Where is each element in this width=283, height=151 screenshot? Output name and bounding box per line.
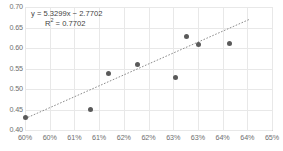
- data-point: [23, 115, 28, 120]
- x-tick-label-3: 61%: [86, 134, 112, 142]
- x-axis-tick-labels: 60%60%61%61%62%62%63%63%64%64%65%: [0, 134, 283, 148]
- gridline-v-10: [272, 7, 273, 130]
- gridline-h-0: [25, 130, 272, 131]
- x-tick-label-8: 64%: [210, 134, 236, 142]
- regression-annotation: y = 5.3299x − 2.7702 R2 = 0.7702: [31, 9, 102, 29]
- y-tick-label-6: 0.70: [1, 3, 23, 10]
- x-tick-label-6: 63%: [160, 134, 186, 142]
- y-tick-label-3: 0.55: [1, 65, 23, 72]
- x-tick-label-10: 65%: [259, 134, 283, 142]
- data-point: [135, 62, 140, 67]
- y-axis-tick-labels: 0.400.450.500.550.600.650.70: [0, 0, 23, 151]
- x-tick-label-5: 62%: [136, 134, 162, 142]
- x-tick-label-2: 61%: [61, 134, 87, 142]
- x-tick-label-4: 62%: [111, 134, 137, 142]
- y-tick-label-4: 0.60: [1, 44, 23, 51]
- y-tick-label-2: 0.50: [1, 85, 23, 92]
- data-point: [227, 41, 232, 46]
- y-tick-label-5: 0.65: [1, 24, 23, 31]
- x-tick-label-1: 60%: [37, 134, 63, 142]
- r-squared-text: R2 = 0.7702: [31, 19, 102, 29]
- x-tick-label-0: 60%: [12, 134, 38, 142]
- equation-text: y = 5.3299x − 2.7702: [31, 9, 102, 19]
- y-tick-label-1: 0.45: [1, 106, 23, 113]
- y-tick-label-0: 0.40: [1, 126, 23, 133]
- x-tick-label-7: 63%: [185, 134, 211, 142]
- r-squared-value: = 0.7702: [53, 19, 85, 28]
- scatter-chart: 0.400.450.500.550.600.650.70 60%60%61%61…: [0, 0, 283, 151]
- x-tick-label-9: 64%: [234, 134, 260, 142]
